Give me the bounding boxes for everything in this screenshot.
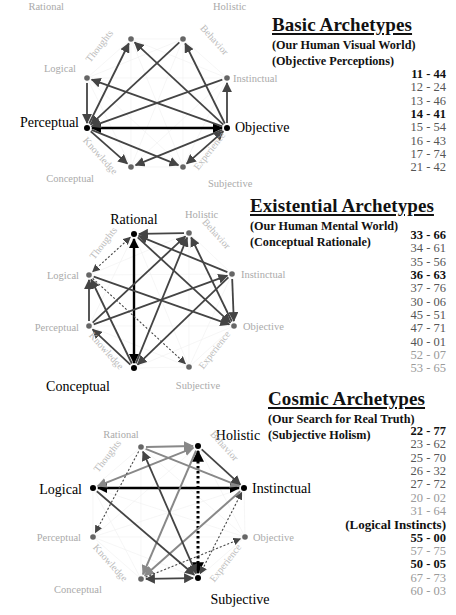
code-pair: 57 - 75 xyxy=(345,545,446,558)
basic-archetypes-header: Basic Archetypes (Our Human Visual World… xyxy=(272,14,415,69)
arc-label-experience: Experience xyxy=(207,541,244,584)
existential-archetypes-subtitle-2: (Conceptual Rationale) xyxy=(250,234,434,250)
node-objective-dot xyxy=(224,125,230,131)
basic-archetypes-diagram: RationalHolisticInstinctualObjectiveSubj… xyxy=(20,1,290,189)
code-pair: 31 - 64 xyxy=(345,505,446,518)
basic-archetypes-subtitle-2: (Objective Perceptions) xyxy=(272,53,415,69)
node-instinctual-dot xyxy=(229,271,235,277)
cosmic-archetypes-title: Cosmic Archetypes xyxy=(268,388,425,410)
code-pair: 45 - 51 xyxy=(411,309,446,322)
basic-archetypes-code-list: 11 - 44 12 - 24 13 - 46 14 - 41 15 - 54 … xyxy=(411,68,446,175)
node-instinctual-dot xyxy=(241,485,247,491)
node-rational-label: Rational xyxy=(110,212,158,227)
arc-label-thoughts: Thoughts xyxy=(87,224,119,261)
code-pair: 50 - 05 xyxy=(345,558,446,571)
relation-arrow-holistic-rational xyxy=(139,233,184,234)
code-pair: 60 - 03 xyxy=(345,585,446,598)
code-pair: 22 - 77 xyxy=(345,425,446,438)
node-subjective-label: Subjective xyxy=(208,178,253,189)
code-pair: 34 - 61 xyxy=(411,242,446,255)
node-instinctual-label: Instinctual xyxy=(233,73,277,84)
arc-label-behavior: Behavior xyxy=(198,22,231,57)
code-pair: 52 - 07 xyxy=(411,349,446,362)
code-pair: 30 - 06 xyxy=(411,296,446,309)
arc-label-behavior: Behavior xyxy=(200,216,233,251)
node-objective-dot xyxy=(231,323,237,329)
arc-label-thoughts: Thoughts xyxy=(91,437,123,474)
node-perceptual-dot xyxy=(84,125,90,131)
existential-archetypes-code-list: 33 - 66 34 - 61 35 - 56 36 - 63 37 - 76 … xyxy=(411,229,446,376)
node-perceptual-label: Perceptual xyxy=(35,322,79,333)
code-pair: 12 - 24 xyxy=(411,81,446,94)
relation-arrow-rational-holistic xyxy=(146,446,193,447)
code-pair: 23 - 62 xyxy=(345,438,446,451)
relation-arrow-conceptual-subjective xyxy=(146,578,193,579)
node-objective-label: Objective xyxy=(235,120,289,135)
code-pair: 37 - 76 xyxy=(411,282,446,295)
code-pair: 55 - 00 xyxy=(345,532,446,545)
code-pair: 16 - 43 xyxy=(411,135,446,148)
code-pair: 21 - 42 xyxy=(411,161,446,174)
node-perceptual-dot xyxy=(90,534,96,540)
node-rational-dot xyxy=(138,444,144,450)
node-conceptual-label: Conceptual xyxy=(46,379,110,394)
code-pair: 15 - 54 xyxy=(411,121,446,134)
code-pair: 35 - 56 xyxy=(411,256,446,269)
node-perceptual-label: Perceptual xyxy=(37,532,81,543)
arc-label-knowledge: Knowledge xyxy=(87,330,126,372)
node-logical-label: Logical xyxy=(44,63,76,74)
node-rational-dot xyxy=(128,36,134,42)
node-objective-label: Objective xyxy=(253,532,294,543)
node-conceptual-label: Conceptual xyxy=(54,584,102,595)
logical-instincts-heading: (Logical Instincts) xyxy=(345,518,446,531)
node-logical-dot xyxy=(86,272,92,278)
arc-label-experience: Experience xyxy=(196,328,233,371)
node-logical-label: Logical xyxy=(47,270,79,281)
node-instinctual-label: Instinctual xyxy=(252,481,311,496)
node-conceptual-dot xyxy=(138,576,144,582)
cosmic-archetypes-diagram: RationalHolisticInstinctualObjectiveSubj… xyxy=(37,428,312,607)
node-instinctual-label: Instinctual xyxy=(241,269,285,280)
code-pair: 17 - 74 xyxy=(411,148,446,161)
node-subjective-dot xyxy=(186,364,192,370)
node-rational-label: Rational xyxy=(28,1,64,12)
code-pair: 47 - 71 xyxy=(411,322,446,335)
node-conceptual-dot xyxy=(131,365,137,371)
code-pair: 27 - 72 xyxy=(345,478,446,491)
node-rational-label: Rational xyxy=(103,429,139,440)
node-conceptual-label: Conceptual xyxy=(46,173,94,184)
node-objective-dot xyxy=(242,534,248,540)
basic-archetypes-title: Basic Archetypes xyxy=(272,14,415,36)
node-conceptual-dot xyxy=(128,164,134,170)
node-subjective-label: Subjective xyxy=(176,380,221,391)
code-pair: 26 - 32 xyxy=(345,465,446,478)
code-pair: 33 - 66 xyxy=(411,229,446,242)
relation-arrow-instinctual-objective xyxy=(232,279,234,321)
node-holistic-label: Holistic xyxy=(213,1,247,12)
node-logical-label: Logical xyxy=(39,482,82,497)
existential-archetypes-subtitle-1: (Our Human Mental World) xyxy=(250,218,434,234)
node-subjective-dot xyxy=(180,164,186,170)
node-instinctual-dot xyxy=(224,75,230,81)
code-pair: 25 - 70 xyxy=(345,452,446,465)
code-pair: 53 - 65 xyxy=(411,362,446,375)
code-pair: 67 - 73 xyxy=(345,572,446,585)
node-logical-dot xyxy=(90,485,96,491)
code-pair: 11 - 44 xyxy=(411,68,446,81)
node-objective-label: Objective xyxy=(243,321,284,332)
node-subjective-dot xyxy=(195,575,201,581)
node-subjective-label: Subjective xyxy=(210,592,269,607)
existential-archetypes-title: Existential Archetypes xyxy=(250,195,434,217)
node-perceptual-label: Perceptual xyxy=(20,115,79,130)
arc-label-thoughts: Thoughts xyxy=(83,27,115,64)
node-holistic-dot xyxy=(180,36,186,42)
node-rational-dot xyxy=(131,231,137,237)
node-holistic-label: Holistic xyxy=(185,209,219,220)
cosmic-archetypes-code-list: 22 - 77 23 - 62 25 - 70 26 - 32 27 - 72 … xyxy=(345,425,446,598)
basic-archetypes-subtitle-1: (Our Human Visual World) xyxy=(272,37,415,53)
code-pair: 36 - 63 xyxy=(411,269,446,282)
existential-archetypes-diagram: RationalHolisticInstinctualObjectiveSubj… xyxy=(35,209,286,394)
node-holistic-dot xyxy=(195,443,201,449)
node-perceptual-dot xyxy=(86,323,92,329)
code-pair: 13 - 46 xyxy=(411,95,446,108)
